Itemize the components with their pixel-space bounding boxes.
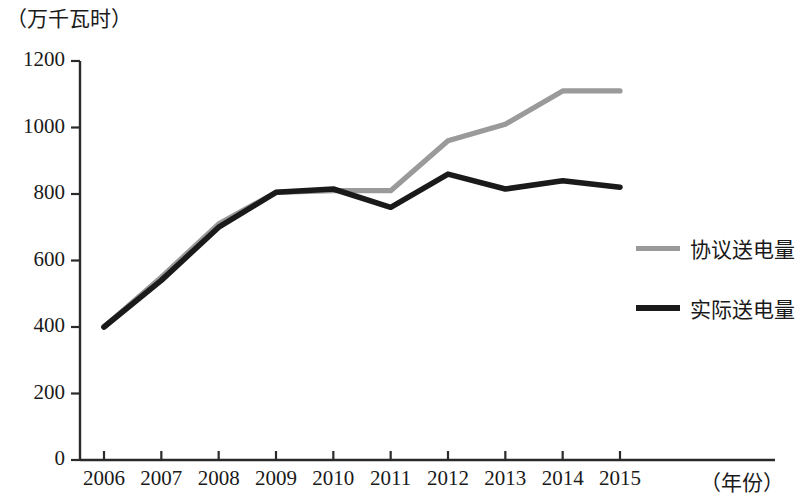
x-tick-label: 2010	[301, 466, 365, 491]
x-axis-title: （年份）	[700, 466, 784, 495]
legend-swatch-icon-0	[636, 246, 680, 251]
x-tick-label: 2006	[72, 466, 136, 491]
series-line-0	[104, 91, 620, 327]
x-tick-label: 2009	[244, 466, 308, 491]
y-tick-label: 600	[3, 247, 65, 272]
series-line-1	[104, 174, 620, 327]
x-tick-label: 2014	[531, 466, 595, 491]
y-tick-label: 1200	[3, 47, 65, 72]
chart-legend: 协议送电量 实际送电量	[636, 236, 788, 356]
legend-swatch-icon-1	[636, 305, 680, 311]
y-tick-label: 0	[3, 446, 65, 471]
legend-label-1: 实际送电量	[690, 293, 795, 323]
x-tick-label: 2015	[588, 466, 652, 491]
x-tick-label: 2011	[359, 466, 423, 491]
y-tick-label: 1000	[3, 114, 65, 139]
legend-label-0: 协议送电量	[690, 233, 795, 263]
x-tick-label: 2013	[473, 466, 537, 491]
y-tick-label: 800	[3, 180, 65, 205]
x-tick-marks	[104, 451, 620, 460]
series-lines	[104, 91, 620, 327]
x-tick-label: 2008	[187, 466, 251, 491]
legend-item-1: 实际送电量	[636, 296, 788, 320]
y-tick-label: 400	[3, 313, 65, 338]
legend-item-0: 协议送电量	[636, 236, 788, 260]
y-tick-marks	[71, 61, 80, 460]
y-tick-label: 200	[3, 380, 65, 405]
x-tick-label: 2007	[129, 466, 193, 491]
x-tick-label: 2012	[416, 466, 480, 491]
